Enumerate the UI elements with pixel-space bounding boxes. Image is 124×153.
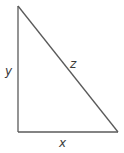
right-triangle-diagram: y z x: [0, 0, 124, 153]
label-z: z: [69, 57, 77, 71]
label-x: x: [58, 136, 67, 150]
label-y: y: [4, 64, 13, 78]
hypotenuse-z: [18, 6, 118, 132]
